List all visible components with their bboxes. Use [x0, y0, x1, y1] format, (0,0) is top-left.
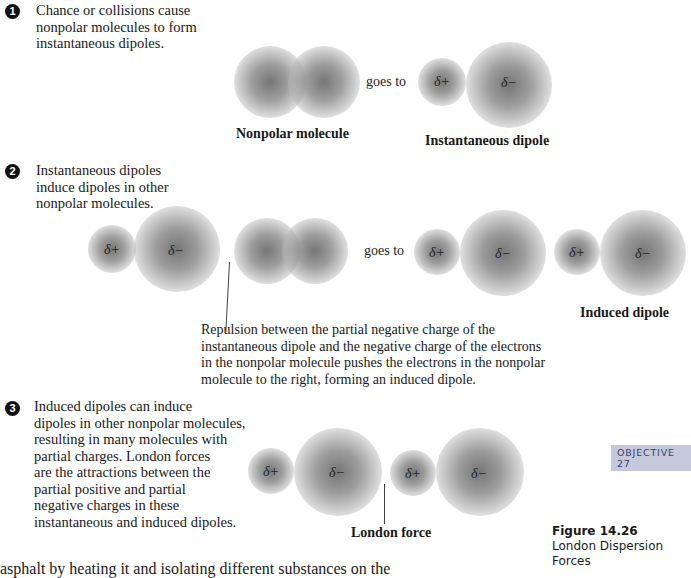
delta-minus-symbol: δ−	[495, 246, 511, 262]
delta-plus-symbol: δ+	[569, 245, 585, 261]
delta-minus-symbol: δ−	[168, 243, 184, 259]
row2-nonpolar-right-lobe	[282, 218, 348, 284]
step-1-text: Chance or collisions cause nonpolar mole…	[36, 2, 197, 52]
delta-minus-symbol: δ−	[329, 465, 345, 481]
delta-plus-symbol: δ+	[434, 74, 450, 90]
cutoff-body-text: asphalt by heating it and isolating diff…	[0, 560, 390, 578]
goes-to-label-1: goes to	[366, 74, 406, 90]
london-force-leader-line	[384, 484, 385, 524]
step-1-badge: 1	[5, 4, 20, 19]
repulsion-note: Repulsion between the partial negative c…	[201, 322, 545, 388]
delta-minus-symbol: δ−	[635, 246, 651, 262]
figure-title: London Dispersion Forces	[552, 539, 691, 569]
delta-minus-symbol: δ−	[471, 466, 487, 482]
induced-dipole-caption: Induced dipole	[580, 305, 669, 321]
delta-plus-symbol: δ+	[429, 245, 445, 261]
nonpolar-molecule-caption: Nonpolar molecule	[236, 126, 349, 142]
nonpolar-molecule-right-lobe	[288, 46, 360, 118]
goes-to-label-2: goes to	[364, 243, 404, 259]
step-2-text: Instantaneous dipoles induce dipoles in …	[36, 162, 168, 212]
delta-minus-symbol: δ−	[501, 75, 517, 91]
step-2-badge: 2	[5, 164, 20, 179]
london-force-caption: London force	[351, 525, 431, 541]
delta-plus-symbol: δ+	[263, 464, 279, 480]
delta-plus-symbol: δ+	[104, 242, 120, 258]
objective-badge: OBJECTIVE 27	[611, 445, 691, 471]
step-3-text: Induced dipoles can induce dipoles in ot…	[34, 398, 245, 530]
step-3-badge: 3	[5, 401, 20, 416]
figure-caption: Figure 14.26 London Dispersion Forces	[552, 524, 691, 569]
instantaneous-dipole-caption: Instantaneous dipole	[425, 133, 549, 149]
delta-plus-symbol: δ+	[405, 466, 421, 482]
figure-number: Figure 14.26	[552, 524, 691, 539]
